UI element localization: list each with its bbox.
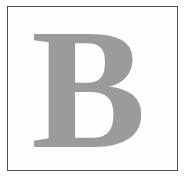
glyph-area: B [8, 7, 177, 170]
image-canvas: B [0, 0, 192, 185]
glyph-frame: B [7, 6, 178, 171]
letter-glyph: B [31, 21, 146, 159]
